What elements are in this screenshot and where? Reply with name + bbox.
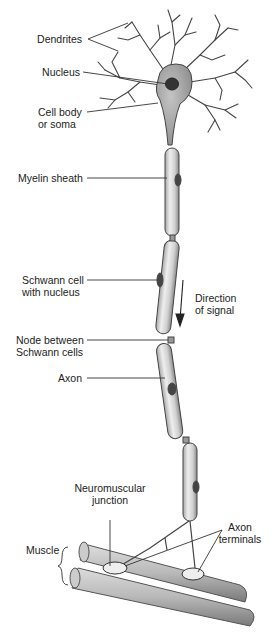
- label-schwann-2: with nucleus: [22, 286, 80, 298]
- label-node-1: Node between: [16, 334, 84, 346]
- direction-arrow: [176, 280, 184, 326]
- label-cell-body-2: or soma: [38, 118, 76, 130]
- label-terminals-2: terminals: [215, 533, 265, 545]
- label-direction-2: of signal: [195, 304, 234, 316]
- label-muscle: Muscle: [26, 544, 59, 556]
- myelin-segments: [155, 148, 199, 521]
- label-nmj-2: junction: [70, 494, 150, 506]
- cell-body: [156, 64, 192, 145]
- label-nucleus: Nucleus: [10, 66, 80, 78]
- label-schwann-1: Schwann cell: [22, 274, 84, 286]
- neuromuscular-junction: [103, 562, 127, 574]
- muscle-fibers: [70, 542, 254, 626]
- label-terminals-1: Axon: [215, 521, 265, 533]
- label-direction-1: Direction: [195, 292, 236, 304]
- label-nmj-1: Neuromuscular: [70, 482, 150, 494]
- label-axon: Axon: [10, 372, 82, 384]
- label-node-2: Schwann cells: [16, 346, 83, 358]
- label-myelin: Myelin sheath: [18, 172, 83, 184]
- label-dendrites: Dendrites: [10, 33, 82, 45]
- label-cell-body-1: Cell body: [38, 106, 82, 118]
